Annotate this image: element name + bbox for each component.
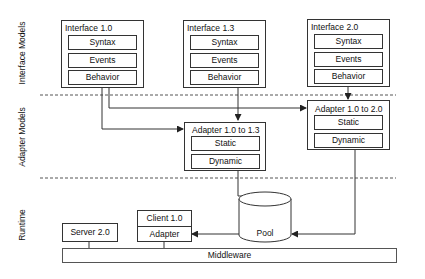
layer-label-interface-models: Interface Models bbox=[16, 13, 28, 93]
interface-title: Interface 2.0 bbox=[311, 22, 358, 32]
server-label: Server 2.0 bbox=[63, 224, 117, 241]
behavior-box: Behavior bbox=[190, 70, 259, 85]
events-box: Events bbox=[314, 52, 383, 67]
syntax-box: Syntax bbox=[314, 34, 383, 49]
dynamic-box: Dynamic bbox=[191, 154, 260, 169]
behavior-box: Behavior bbox=[314, 69, 383, 84]
client-adapter-label: Adapter bbox=[137, 227, 192, 241]
adapter-title: Adapter 1.0 to 2.0 bbox=[315, 104, 383, 114]
adapter-title: Adapter 1.0 to 1.3 bbox=[192, 125, 260, 135]
interface-title: Interface 1.0 bbox=[65, 23, 112, 33]
layer-label-runtime: Runtime bbox=[16, 185, 28, 265]
middleware-bar: Middleware bbox=[62, 248, 397, 263]
interface-title: Interface 1.3 bbox=[187, 23, 234, 33]
interface-2-0-box: Interface 2.0 Syntax Events Behavior bbox=[307, 19, 390, 87]
client-title: Client 1.0 bbox=[138, 213, 191, 223]
syntax-box: Syntax bbox=[68, 35, 137, 50]
client-adapter-box: Adapter bbox=[137, 226, 192, 242]
middleware-label: Middleware bbox=[63, 249, 396, 262]
interface-1-3-box: Interface 1.3 Syntax Events Behavior bbox=[183, 20, 266, 88]
layer-label-adapter-models: Adapter Models bbox=[16, 97, 28, 177]
events-box: Events bbox=[190, 53, 259, 68]
adapter-1-0-to-1-3-box: Adapter 1.0 to 1.3 Static Dynamic bbox=[184, 122, 266, 171]
behavior-box: Behavior bbox=[68, 70, 137, 85]
static-box: Static bbox=[191, 136, 260, 151]
dynamic-box: Dynamic bbox=[314, 133, 383, 148]
interface-1-0-box: Interface 1.0 Syntax Events Behavior bbox=[61, 20, 144, 88]
server-2-0-box: Server 2.0 bbox=[62, 223, 118, 242]
static-box: Static bbox=[314, 115, 383, 130]
adapter-1-0-to-2-0-box: Adapter 1.0 to 2.0 Static Dynamic bbox=[307, 100, 390, 150]
client-1-0-box: Client 1.0 Adapter bbox=[137, 210, 192, 242]
syntax-box: Syntax bbox=[190, 35, 259, 50]
pool-label: Pool bbox=[239, 228, 291, 238]
events-box: Events bbox=[68, 53, 137, 68]
